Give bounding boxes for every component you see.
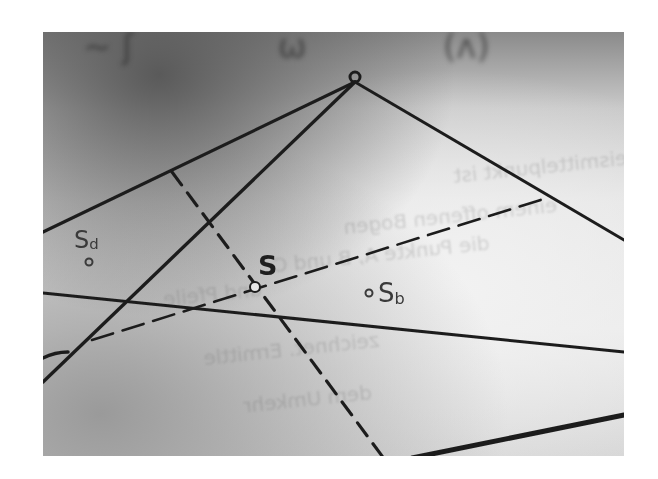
side-c-left [43,82,355,232]
label-sd: Sd [74,226,99,254]
small-arc [43,352,68,358]
centroid-point [250,282,260,292]
transversal-line [43,293,624,352]
point-sb [366,290,373,297]
label-sd-main: S [74,226,89,254]
label-sb-sub: b [395,289,405,308]
apex-point [350,72,360,82]
label-sd-sub: d [89,235,98,253]
geometry-diagram [0,0,658,479]
label-sb: Sb [378,278,405,308]
label-centroid: S [258,250,277,281]
bottom-right-line [412,415,624,458]
label-sb-main: S [378,278,395,308]
point-sd [86,259,93,266]
